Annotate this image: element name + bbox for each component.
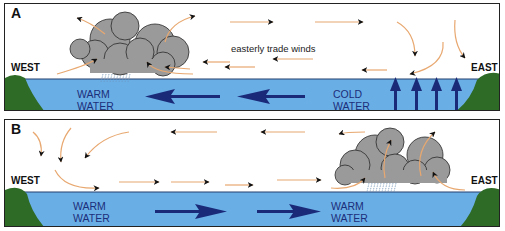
panel-label: A [11,5,21,21]
water-label-line: COLD [333,88,362,100]
west-label: WEST [11,62,40,73]
east-label: EAST [471,62,498,73]
water-label-line: WARM [73,200,106,212]
east-label: EAST [471,175,498,186]
water-label-line: WATER [333,100,370,111]
water-label-west: WARM WATER [77,88,114,111]
water-label-east: WARM WATER [331,200,368,224]
water-label-line: WARM [331,200,364,212]
water-label-east: COLD WATER [333,88,370,111]
water-label-line: WATER [77,100,114,111]
panel-label: B [11,121,21,137]
water-label-line: WATER [73,212,110,224]
west-label: WEST [11,175,40,186]
water-label-west: WARM WATER [73,200,110,224]
storm-cloud [335,128,450,185]
trade-winds-annotation: easterly trade winds [231,43,315,54]
rain [367,183,396,192]
panel-a-normal-conditions: A WEST EAST easterly trade winds WARM WA… [4,3,500,111]
panel-b-el-nino-conditions: B WEST EAST WARM WATER WARM WATER [4,119,500,227]
water-label-line: WARM [77,88,110,100]
water-label-line: WATER [331,212,368,224]
storm-cloud [70,12,189,76]
